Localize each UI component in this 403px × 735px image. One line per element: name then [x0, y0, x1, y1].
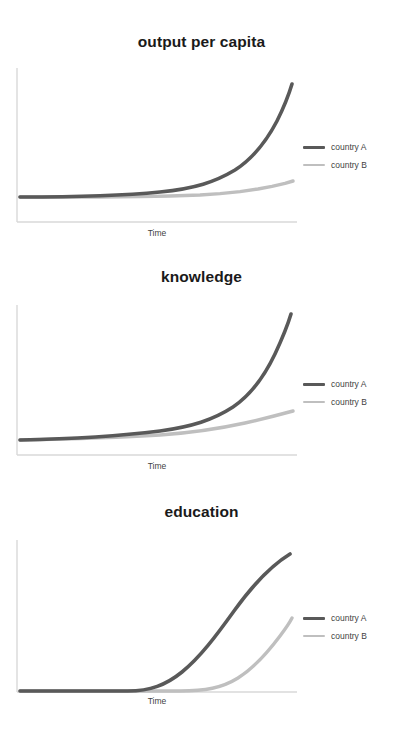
series-line-country-a	[20, 84, 292, 197]
legend-swatch-country-b	[303, 164, 325, 167]
legend-label-country-a: country A	[331, 380, 366, 389]
legend-item-country-b: country B	[303, 627, 403, 645]
legend-item-country-b: country B	[303, 156, 403, 174]
chart-title: education	[0, 503, 403, 521]
chart-title: knowledge	[0, 268, 403, 286]
chart-output-per-capita: output per capita Time country A country…	[0, 0, 403, 255]
legend-swatch-country-a	[303, 617, 325, 620]
x-axis-label: Time	[97, 228, 217, 238]
x-axis-label: Time	[97, 461, 217, 471]
axes	[17, 68, 297, 222]
series-line-country-b	[20, 618, 292, 691]
chart-education: education Time country A country B	[0, 490, 403, 735]
legend-item-country-a: country A	[303, 138, 403, 156]
legend-swatch-country-b	[303, 635, 325, 638]
legend-label-country-a: country A	[331, 143, 366, 152]
legend: country A country B	[303, 609, 403, 645]
chart-knowledge: knowledge Time country A country B	[0, 255, 403, 490]
legend-item-country-a: country A	[303, 609, 403, 627]
series-line-country-b	[20, 411, 293, 440]
series-line-country-b	[20, 181, 293, 197]
legend-label-country-b: country B	[331, 632, 367, 641]
legend: country A country B	[303, 138, 403, 174]
chart-title: output per capita	[0, 33, 403, 51]
legend-label-country-b: country B	[331, 161, 367, 170]
legend-item-country-a: country A	[303, 375, 403, 393]
legend-label-country-b: country B	[331, 398, 367, 407]
legend-item-country-b: country B	[303, 393, 403, 411]
legend-label-country-a: country A	[331, 614, 366, 623]
axes	[17, 540, 297, 692]
legend: country A country B	[303, 375, 403, 411]
legend-swatch-country-b	[303, 401, 325, 404]
legend-swatch-country-a	[303, 146, 325, 149]
legend-swatch-country-a	[303, 383, 325, 386]
x-axis-label: Time	[97, 696, 217, 706]
